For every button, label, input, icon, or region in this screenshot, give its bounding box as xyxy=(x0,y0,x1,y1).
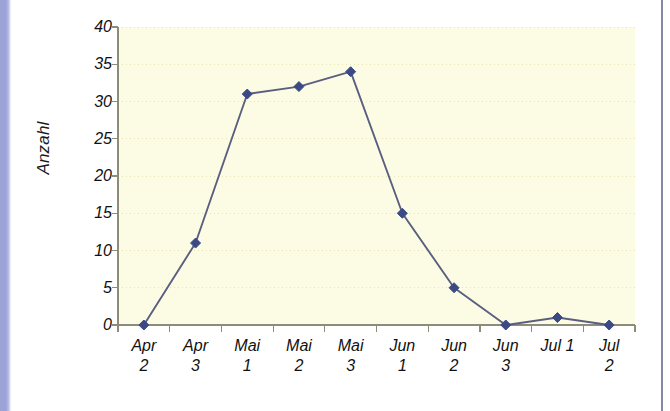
data-point-marker xyxy=(139,320,149,330)
data-point-marker xyxy=(346,67,356,77)
data-point-marker xyxy=(552,313,562,323)
data-point-marker xyxy=(604,320,614,330)
data-point-marker xyxy=(191,238,201,248)
data-point-marker xyxy=(294,82,304,92)
series-polyline xyxy=(144,72,609,325)
series-line xyxy=(144,72,609,325)
data-point-marker xyxy=(242,89,252,99)
line-chart: Anzahl 0510152025303540 Apr2Apr3Mai1Mai2… xyxy=(0,0,670,411)
plot-svg xyxy=(0,0,670,411)
axis-lines xyxy=(118,27,635,325)
axis-ticks xyxy=(112,27,635,332)
